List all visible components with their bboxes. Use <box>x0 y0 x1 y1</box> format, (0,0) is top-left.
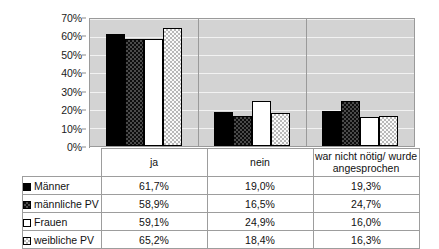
y-axis-tick-label: 40% <box>61 68 82 78</box>
category-separator <box>306 19 307 146</box>
y-axis-tick-label: 50% <box>61 50 82 60</box>
chart-plot-region: 0%10%20%30%40%50%60%70% <box>0 0 439 152</box>
bar-weibliche-pv-nein <box>271 113 290 146</box>
data-table: janeinwar nicht nötig/ wurde angesproche… <box>22 148 420 249</box>
table-cell-value: 16,5% <box>207 195 313 213</box>
table-cell-value: 18,4% <box>207 231 313 249</box>
legend-cell: Frauen <box>23 213 102 231</box>
y-axis-tick-mark <box>82 36 86 37</box>
legend-label: Frauen <box>34 216 67 228</box>
plot-area <box>89 18 415 147</box>
y-axis-tick-mark <box>82 110 86 111</box>
table-cell-value: 19,3% <box>313 177 419 195</box>
table-cell-value: 16,3% <box>313 231 419 249</box>
bar-männer-war <box>322 111 341 146</box>
table-column-header: war nicht nötig/ wurde angesprochen <box>313 149 419 177</box>
legend-swatch-icon <box>23 237 31 245</box>
bar-weibliche-pv-ja <box>163 28 182 146</box>
table-cell-value: 19,0% <box>207 177 313 195</box>
table-header-row: janeinwar nicht nötig/ wurde angesproche… <box>23 149 420 177</box>
legend-label: männliche PV <box>34 198 99 210</box>
table-column-header: ja <box>101 149 207 177</box>
table-cell-value: 24,9% <box>207 213 313 231</box>
legend-label: weibliche PV <box>34 234 94 246</box>
bar-frauen-nein <box>252 101 271 146</box>
table-row: Männer61,7%19,0%19,3% <box>23 177 420 195</box>
table-cell-value: 24,7% <box>313 195 419 213</box>
y-axis-tick-label: 10% <box>61 124 82 134</box>
table-row: weibliche PV65,2%18,4%16,3% <box>23 231 420 249</box>
table-column-header: nein <box>207 149 313 177</box>
legend-cell: Männer <box>23 177 102 195</box>
y-axis-tick-mark <box>82 128 86 129</box>
table-row: Frauen59,1%24,9%16,0% <box>23 213 420 231</box>
table-cell-value: 59,1% <box>101 213 207 231</box>
legend-swatch-icon <box>23 183 31 191</box>
bar-männliche-pv-nein <box>233 116 252 146</box>
legend-swatch-icon <box>23 219 31 227</box>
bar-frauen-ja <box>144 39 163 146</box>
legend-swatch-icon <box>23 201 31 209</box>
bar-weibliche-pv-war <box>379 116 398 146</box>
y-axis-tick-label: 20% <box>61 105 82 115</box>
y-axis: 0%10%20%30%40%50%60%70% <box>30 12 86 147</box>
bar-frauen-war <box>360 117 379 146</box>
y-axis-tick-mark <box>82 18 86 19</box>
bar-männer-nein <box>214 112 233 146</box>
table-cell-value: 16,0% <box>313 213 419 231</box>
chart-page: 0%10%20%30%40%50%60%70% janeinwar nicht … <box>0 0 439 249</box>
bar-series-container <box>90 19 414 146</box>
y-axis-tick-label: 30% <box>61 87 82 97</box>
table-cell-value: 61,7% <box>101 177 207 195</box>
bar-männliche-pv-ja <box>125 39 144 146</box>
y-axis-tick-label: 70% <box>61 13 82 23</box>
legend-label: Männer <box>34 180 70 192</box>
category-separator <box>198 19 199 146</box>
table-cell-value: 58,9% <box>101 195 207 213</box>
y-axis-tick-mark <box>82 91 86 92</box>
table-row: männliche PV58,9%16,5%24,7% <box>23 195 420 213</box>
y-axis-tick-mark <box>82 54 86 55</box>
table-header-corner <box>23 149 102 177</box>
bar-männliche-pv-war <box>341 101 360 146</box>
bar-männer-ja <box>106 34 125 146</box>
legend-cell: männliche PV <box>23 195 102 213</box>
legend-cell: weibliche PV <box>23 231 102 249</box>
y-axis-tick-mark <box>82 73 86 74</box>
table-cell-value: 65,2% <box>101 231 207 249</box>
y-axis-tick-label: 60% <box>61 31 82 41</box>
